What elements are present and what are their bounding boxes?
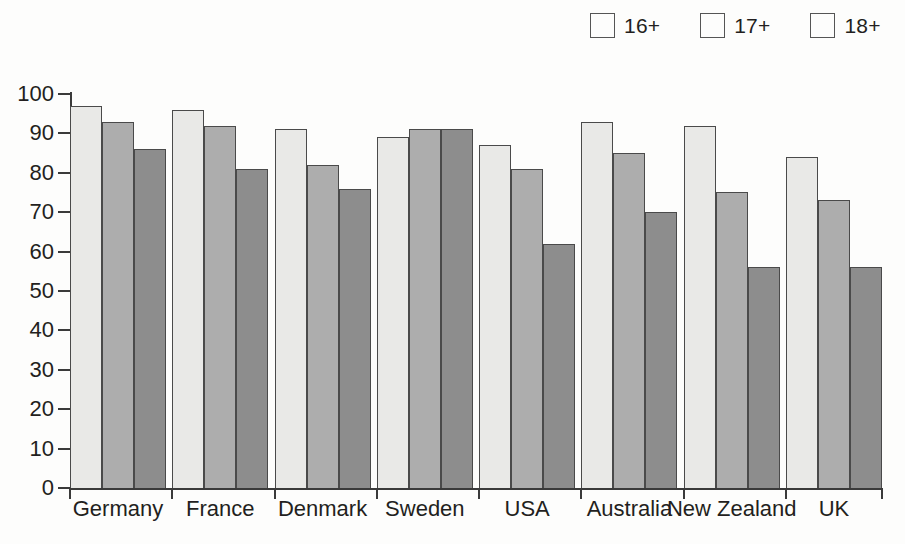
bar-uk-17plus xyxy=(818,200,850,488)
y-axis-tick-labels: 1009080706050403020100 xyxy=(0,0,54,544)
bar-new-zealand-16plus xyxy=(684,126,716,488)
x-axis-tick-labels: GermanyFranceDenmarkSwedenUSAAustraliaNe… xyxy=(0,496,905,536)
bar-group-denmark xyxy=(275,94,371,488)
legend-swatch-16plus-icon xyxy=(590,13,615,38)
chart-legend: 16+ 17+ 18+ xyxy=(590,8,890,42)
bar-group-new-zealand xyxy=(684,94,780,488)
y-axis-tick-70 xyxy=(58,211,70,213)
bar-australia-16plus xyxy=(581,122,613,488)
bar-france-17plus xyxy=(204,126,236,488)
bar-groups xyxy=(70,94,882,488)
y-axis-tick-40 xyxy=(58,329,70,331)
bar-group-sweden xyxy=(377,94,473,488)
bar-germany-16plus xyxy=(70,106,102,488)
y-axis-tick-50 xyxy=(58,290,70,292)
y-axis-tick-20 xyxy=(58,408,70,410)
bar-chart: 16+ 17+ 18+ 1009080706050403020100 Germa… xyxy=(0,0,905,544)
y-axis-tick-label-60: 60 xyxy=(0,241,54,263)
y-axis-tick-label-10: 10 xyxy=(0,438,54,460)
legend-item-16plus: 16+ xyxy=(590,13,660,38)
legend-item-17plus: 17+ xyxy=(700,13,770,38)
bar-group-france xyxy=(172,94,268,488)
y-axis-tick-label-20: 20 xyxy=(0,398,54,420)
y-axis-tick-label-70: 70 xyxy=(0,201,54,223)
bar-group-uk xyxy=(786,94,882,488)
legend-swatch-17plus-icon xyxy=(700,13,725,38)
bar-sweden-16plus xyxy=(377,137,409,488)
legend-label-16plus: 16+ xyxy=(624,15,660,36)
legend-swatch-18plus-icon xyxy=(810,13,835,38)
bar-new-zealand-18plus xyxy=(748,267,780,488)
bar-usa-16plus xyxy=(479,145,511,488)
bar-germany-18plus xyxy=(134,149,166,488)
y-axis-tick-label-30: 30 xyxy=(0,359,54,381)
y-axis-tick-60 xyxy=(58,251,70,253)
bar-usa-18plus xyxy=(543,244,575,488)
y-axis-tick-100 xyxy=(58,93,70,95)
y-axis-tick-label-50: 50 xyxy=(0,280,54,302)
y-axis-tick-10 xyxy=(58,448,70,450)
bar-denmark-17plus xyxy=(307,165,339,488)
y-axis-tick-label-100: 100 xyxy=(0,83,54,105)
bar-uk-16plus xyxy=(786,157,818,488)
bar-france-16plus xyxy=(172,110,204,488)
legend-label-18plus: 18+ xyxy=(844,15,880,36)
legend-label-17plus: 17+ xyxy=(734,15,770,36)
y-axis-tick-30 xyxy=(58,369,70,371)
bar-new-zealand-17plus xyxy=(716,192,748,488)
y-axis-tick-90 xyxy=(58,132,70,134)
y-axis-tick-label-90: 90 xyxy=(0,122,54,144)
x-axis-label-uk: UK xyxy=(754,496,905,522)
bar-denmark-16plus xyxy=(275,129,307,488)
y-axis-tick-label-40: 40 xyxy=(0,319,54,341)
legend-item-18plus: 18+ xyxy=(810,13,880,38)
bar-australia-17plus xyxy=(613,153,645,488)
bar-sweden-17plus xyxy=(409,129,441,488)
x-axis-line xyxy=(70,488,882,490)
bar-sweden-18plus xyxy=(441,129,473,488)
bar-australia-18plus xyxy=(645,212,677,488)
y-axis-tick-label-80: 80 xyxy=(0,162,54,184)
bar-group-usa xyxy=(479,94,575,488)
bar-denmark-18plus xyxy=(339,189,371,488)
bar-france-18plus xyxy=(236,169,268,488)
bar-group-australia xyxy=(581,94,677,488)
bar-group-germany xyxy=(70,94,166,488)
bar-uk-18plus xyxy=(850,267,882,488)
bar-usa-17plus xyxy=(511,169,543,488)
y-axis-tick-80 xyxy=(58,172,70,174)
bar-germany-17plus xyxy=(102,122,134,488)
